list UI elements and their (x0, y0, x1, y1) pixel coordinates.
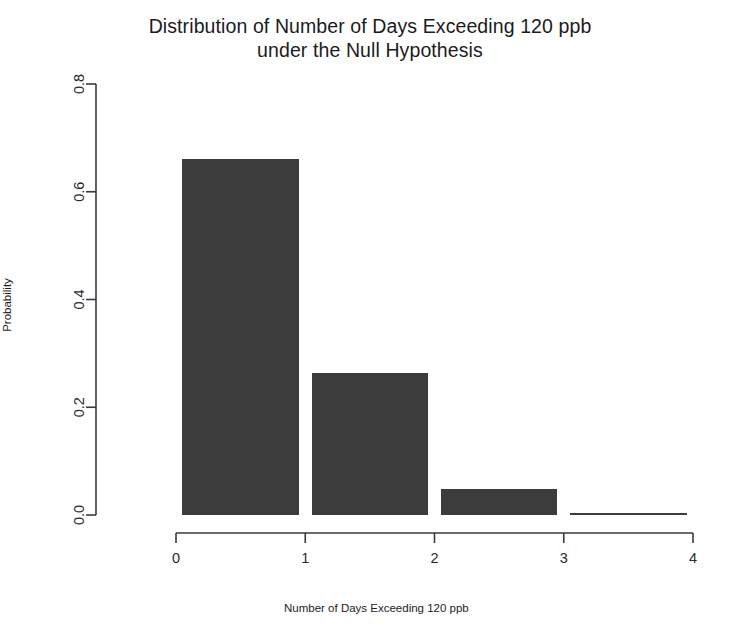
y-axis-tick-labels: 0.00.20.40.60.8 (71, 74, 87, 525)
bar-series (182, 159, 686, 515)
bar (182, 159, 298, 515)
y-tick-label: 0.0 (71, 505, 87, 525)
bar (570, 513, 686, 515)
x-axis-tick-labels: 01234 (172, 550, 697, 566)
x-tick-label: 4 (689, 550, 697, 566)
x-tick-label: 0 (172, 550, 180, 566)
bar (441, 489, 557, 515)
x-axis: 01234 (172, 533, 697, 566)
x-tick-label: 3 (560, 550, 568, 566)
y-tick-label: 0.8 (71, 74, 87, 94)
y-tick-label: 0.6 (71, 182, 87, 202)
bar (312, 373, 428, 515)
x-tick-label: 1 (301, 550, 309, 566)
y-axis-ticks (86, 84, 96, 515)
chart-figure: Distribution of Number of Days Exceeding… (0, 0, 740, 633)
plot-area: 0.00.20.40.60.8 01234 (0, 0, 740, 633)
x-axis-ticks (305, 533, 564, 543)
y-tick-label: 0.4 (71, 289, 87, 309)
y-tick-label: 0.2 (71, 397, 87, 417)
x-tick-label: 2 (430, 550, 438, 566)
y-axis: 0.00.20.40.60.8 (71, 74, 96, 525)
